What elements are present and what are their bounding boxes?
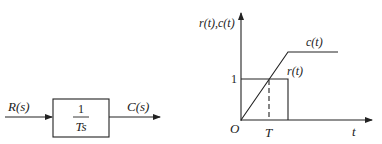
block-diagram: R(s) 1 Ts C(s) — [5, 99, 160, 137]
c-t-label: c(t) — [306, 35, 323, 49]
input-label: R(s) — [7, 99, 30, 114]
origin-label: O — [230, 121, 240, 136]
tf-denominator: Ts — [75, 119, 86, 134]
c-t-curve — [241, 52, 338, 120]
response-graph: r(t),c(t) t O 1 T r(t) c(t) — [199, 13, 372, 140]
diagram-canvas: R(s) 1 Ts C(s) r(t),c(t) t O 1 T r(t) c(… — [0, 0, 382, 144]
output-label: C(s) — [127, 99, 149, 114]
x-axis-label: t — [352, 124, 356, 139]
r-t-label: r(t) — [287, 64, 303, 78]
x-tick-T: T — [265, 125, 273, 140]
tf-numerator: 1 — [78, 102, 84, 116]
y-tick-1: 1 — [231, 72, 237, 86]
y-axis-label: r(t),c(t) — [199, 16, 235, 30]
